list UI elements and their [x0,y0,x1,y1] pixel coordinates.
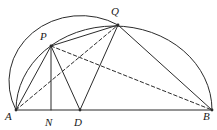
vertex-label-n: N [45,117,52,128]
segment-P-Q [51,25,118,46]
vertex-label-b: B [203,111,210,122]
segment-A-P [16,46,51,110]
geometry-figure: ANDBPQ [0,0,217,130]
vertex-dot-p [50,45,53,48]
vertex-dot-q [117,24,120,27]
vertex-label-a: A [5,111,12,122]
vertex-label-q: Q [111,6,119,17]
vertex-label-p: P [40,31,47,42]
vertex-dot-a [15,109,18,112]
vertex-dot-b [211,109,214,112]
segment-Q-D [80,25,118,110]
geometry-canvas [0,0,217,130]
vertex-label-d: D [74,117,82,128]
vertex-dot-d [79,109,82,112]
segment-A-Q [16,25,118,110]
